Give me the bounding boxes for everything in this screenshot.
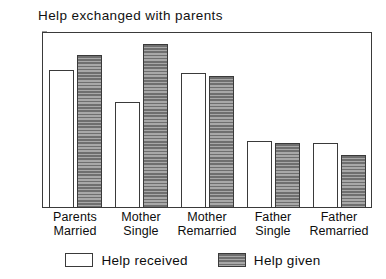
bar-help-given[interactable] (341, 155, 366, 208)
bar-group (108, 32, 174, 208)
x-axis-label-line1: Father (255, 210, 292, 224)
bar-group (174, 32, 240, 208)
chart-legend: Help received Help given (0, 248, 386, 272)
bar-help-received[interactable] (247, 141, 272, 208)
x-axis-label-line2: Remarried (309, 224, 368, 238)
legend-swatch-received-icon (65, 253, 93, 267)
bars-layer (42, 32, 372, 208)
x-axis-category-label: FatherRemarried (309, 210, 368, 238)
legend-swatch-given-icon (218, 253, 246, 267)
x-axis-label-line1: Parents (53, 210, 97, 224)
bar-help-received[interactable] (115, 102, 140, 208)
legend-label-received: Help received (101, 253, 187, 268)
x-axis-label-line2: Single (255, 224, 292, 238)
x-axis-category-label: MotherSingle (121, 210, 161, 238)
x-axis-label-line1: Mother (121, 210, 161, 224)
bar-group (42, 32, 108, 208)
y-axis: 00.10.20.30.40.50.6 (0, 0, 42, 279)
bar-help-given[interactable] (275, 143, 300, 208)
legend-label-given: Help given (254, 253, 321, 268)
bar-help-received[interactable] (313, 143, 338, 208)
bar-help-received[interactable] (49, 70, 74, 208)
bar-help-received[interactable] (181, 73, 206, 208)
bar-chart: Help exchanged with parents 00.10.20.30.… (0, 0, 386, 279)
x-axis-category-label: ParentsMarried (53, 210, 97, 238)
bar-help-given[interactable] (77, 55, 102, 208)
x-axis-labels: ParentsMarriedMotherSingleMotherRemarrie… (42, 210, 372, 244)
chart-title: Help exchanged with parents (38, 8, 223, 23)
x-axis-category-label: MotherRemarried (177, 210, 236, 238)
x-axis-label-line2: Remarried (177, 224, 236, 238)
bar-group (240, 32, 306, 208)
x-axis-label-line2: Married (53, 224, 97, 238)
legend-item-help-received[interactable]: Help received (65, 253, 187, 268)
legend-item-help-given[interactable]: Help given (218, 253, 321, 268)
x-axis-category-label: FatherSingle (255, 210, 292, 238)
bar-help-given[interactable] (143, 44, 168, 208)
x-axis-label-line1: Mother (187, 210, 227, 224)
bar-group (306, 32, 372, 208)
x-axis-label-line1: Father (321, 210, 358, 224)
bar-help-given[interactable] (209, 76, 234, 208)
x-axis-label-line2: Single (121, 224, 161, 238)
